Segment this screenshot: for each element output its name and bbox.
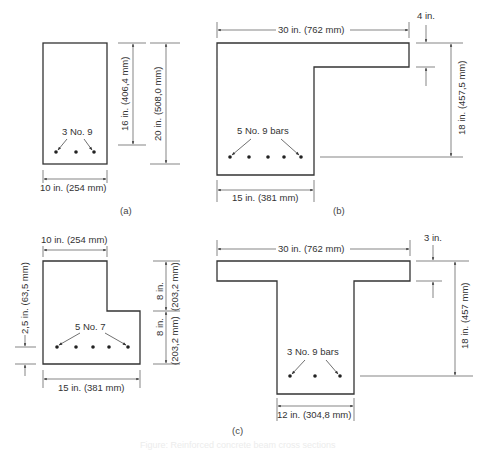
width-dimension: 10 in. (254 mm) xyxy=(40,182,107,193)
web-width-dimension: 15 in. (381 mm) xyxy=(232,192,299,203)
top-width-dimension: 10 in. (254 mm) xyxy=(41,234,108,245)
section-outline xyxy=(43,43,107,164)
effective-depth-dimension: 16 in. (406,4 mm) xyxy=(119,57,130,131)
rebar-dots xyxy=(228,155,303,159)
effective-depth-dimension: 18 in. (457 mm) xyxy=(459,282,470,349)
effective-depth-dimension: 18 in. (457,5 mm) xyxy=(456,61,467,135)
figure-caption: Figure: Reinforced concrete beam cross s… xyxy=(140,440,336,450)
total-depth-dimension: 20 in. (508,0 mm) xyxy=(152,67,163,141)
beam-sections-diagram: 3 No. 9 10 in. (254 mm) 16 in. (406,4 mm… xyxy=(0,0,489,450)
rebar-label: 3 No. 9 xyxy=(62,126,93,137)
rebar-label: 3 No. 9 bars xyxy=(287,346,339,357)
upper-height-mm: (203,2 mm) xyxy=(169,262,180,311)
flange-width-dimension: 30 in. (762 mm) xyxy=(278,24,345,35)
panel-label: (b) xyxy=(333,205,345,216)
panel-c: 3 No. 9 bars 30 in. (762 mm) 3 in. 18 in… xyxy=(217,232,473,436)
panel-label: (a) xyxy=(120,205,132,216)
rebar-dots xyxy=(54,150,96,154)
rebar-label: 5 No. 7 xyxy=(75,321,106,332)
lower-height-mm: (203,2 mm) xyxy=(169,316,180,365)
flange-thickness-dimension: 4 in. xyxy=(417,10,435,21)
web-width-dimension: 12 in. (304,8 mm) xyxy=(277,409,351,420)
section-outline xyxy=(217,43,409,175)
rebar-dots xyxy=(55,345,130,349)
bottom-width-dimension: 15 in. (381 mm) xyxy=(58,382,125,393)
rebar-dots xyxy=(288,374,342,378)
flange-width-dimension: 30 in. (762 mm) xyxy=(278,243,345,254)
section-outline xyxy=(217,261,410,394)
lower-height-label: 8 in. xyxy=(154,318,165,336)
flange-thickness-dimension: 3 in. xyxy=(424,232,442,243)
rebar-label: 5 No. 9 bars xyxy=(237,125,289,136)
panel-c-left: 5 No. 7 10 in. (254 mm) 2,5 in. (63,5 mm… xyxy=(15,234,180,393)
upper-height-label: 8 in. xyxy=(154,282,165,300)
cover-dimension: 2,5 in. (63,5 mm) xyxy=(19,262,30,334)
panel-a: 3 No. 9 10 in. (254 mm) 16 in. (406,4 mm… xyxy=(40,43,180,216)
panel-label: (c) xyxy=(232,425,243,436)
panel-b: 5 No. 9 bars 30 in. (762 mm) 4 in. 18 in… xyxy=(217,10,467,216)
